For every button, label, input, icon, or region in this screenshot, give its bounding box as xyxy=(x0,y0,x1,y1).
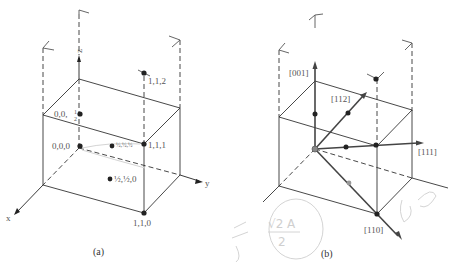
label-frac: 1 xyxy=(74,109,77,115)
point-origin xyxy=(77,143,82,148)
corner-mark xyxy=(169,36,180,47)
point-1-1-2 xyxy=(141,70,146,75)
corner-mark xyxy=(309,14,323,28)
cube-hidden-edge xyxy=(79,148,180,175)
arrow-111-icon xyxy=(416,141,424,146)
point-on-112 xyxy=(346,111,351,116)
arrow-001-icon xyxy=(313,61,318,69)
point-0-0-half xyxy=(77,111,82,116)
point-origin xyxy=(312,146,318,152)
x-axis xyxy=(17,185,43,212)
y-axis-label: y xyxy=(205,178,210,188)
corner-mark xyxy=(43,41,54,50)
point-1-1-2 xyxy=(373,76,378,81)
cube-top-face xyxy=(279,81,412,146)
panel-a: z y x 0,0, 1 2 1,1,2 0,0,0 ½,½,½ 1,1,1 ½… xyxy=(6,10,210,258)
corner-mark xyxy=(279,43,289,53)
panel-b: [001] [112] [111] [110] √2 A 2 (b) xyxy=(232,14,448,262)
point-on-111-half xyxy=(344,145,349,150)
pencil-scribble-left xyxy=(232,222,248,262)
point-1-1-1 xyxy=(373,142,378,147)
caption-b: (b) xyxy=(321,248,333,260)
cube-hidden-edge xyxy=(279,149,315,186)
label-110: [110] xyxy=(364,225,383,235)
label-half-half-0: ½,½,0 xyxy=(114,174,137,184)
point-1-1-0 xyxy=(374,211,379,216)
label-frac: 2 xyxy=(74,116,77,122)
point-on-001 xyxy=(313,112,318,117)
label-112: [112] xyxy=(331,94,350,104)
cube-edge xyxy=(43,185,144,213)
label-0-0-0: 0,0,0 xyxy=(52,141,71,151)
handwritten-numerator: √2 A xyxy=(268,217,296,231)
caption-a: (a) xyxy=(93,246,104,258)
x-arrow-icon xyxy=(14,208,20,215)
axis-extension xyxy=(412,178,448,188)
x-axis-label: x xyxy=(6,213,11,223)
point-half-half-half xyxy=(110,144,115,149)
label-001: [001] xyxy=(289,68,309,78)
label-111: [111] xyxy=(418,147,437,157)
vector-110 xyxy=(315,149,398,236)
cube-edge xyxy=(144,175,180,213)
z-axis-label: z xyxy=(74,49,84,53)
axis-extension xyxy=(263,186,279,202)
y-arrow-icon xyxy=(195,179,203,184)
arrow-110-icon xyxy=(395,231,402,240)
label-half-half-half: ½,½,½ xyxy=(116,142,133,148)
pencil-stroke xyxy=(82,150,145,168)
label-1-1-1: 1,1,1 xyxy=(148,140,166,150)
handwritten-notes: √2 A 2 xyxy=(232,192,436,262)
point-on-110-half xyxy=(347,181,352,186)
pencil-scribble-right xyxy=(400,192,436,222)
crystal-diagram: z y x 0,0, 1 2 1,1,2 0,0,0 ½,½,½ 1,1,1 ½… xyxy=(0,0,458,274)
corner-mark xyxy=(79,10,89,14)
handwritten-denominator: 2 xyxy=(278,235,286,249)
label-0-0-half: 0,0, xyxy=(54,109,68,119)
vector-111 xyxy=(315,143,418,149)
cube-edge xyxy=(279,186,377,214)
label-1-1-0: 1,1,0 xyxy=(133,218,152,228)
point-1-1-1 xyxy=(141,141,146,146)
label-1-1-2: 1,1,2 xyxy=(148,76,166,86)
corner-mark xyxy=(402,40,412,50)
z-arrow-icon xyxy=(77,55,81,62)
point-1-1-0 xyxy=(141,210,146,215)
cube-edge xyxy=(377,178,412,214)
point-half-half-0 xyxy=(108,177,113,182)
cube-hidden-edge xyxy=(43,148,79,185)
